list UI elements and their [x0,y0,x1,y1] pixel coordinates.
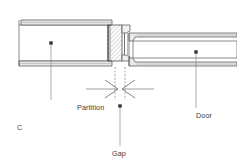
label-partition: Partition [77,104,104,111]
jamb-block [108,25,122,61]
leader-door [194,50,197,108]
label-door: Door [196,112,212,119]
stop-upper-nib [122,25,130,33]
figure-id-label: C [17,124,22,131]
partition-assembly [19,20,112,66]
label-gap: Gap [112,150,126,157]
leader-dot-gap [118,104,121,107]
door-bottom-band [129,58,237,66]
gap-dimension [86,67,154,100]
door-top-band [129,33,237,41]
figure-container: Partition Door Gap C [0,0,237,168]
leader-dot-door [194,50,197,53]
leader-dot-partition [49,41,52,44]
jamb-hatch-fill [108,25,122,61]
partition-core [19,25,110,61]
cross-section-drawing [0,0,237,168]
leader-gap [118,104,121,146]
door-core [133,41,237,58]
door-assembly [129,33,237,66]
